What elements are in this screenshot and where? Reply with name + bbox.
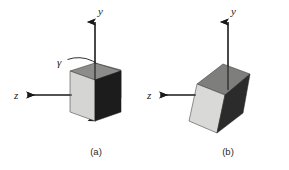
figure-canvas: y z γ (a) y z (b) [0, 0, 289, 170]
caption-panel-b: (b) [222, 146, 234, 157]
cube-a-right-face [95, 71, 121, 121]
axis-label-z-b: z [146, 89, 152, 101]
axis-label-z-a: z [13, 89, 19, 101]
cube-a-left-face [70, 71, 95, 121]
axis-label-y-b: y [230, 5, 236, 17]
caption-panel-a: (a) [90, 146, 102, 157]
axis-label-y-a: y [97, 5, 103, 17]
rotation-angle-label-gamma: γ [57, 56, 62, 68]
